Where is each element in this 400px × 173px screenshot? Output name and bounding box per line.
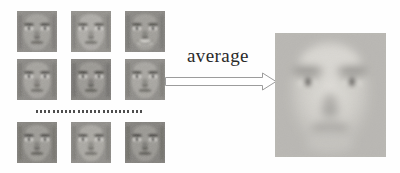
face-thumbnail <box>17 11 57 52</box>
average-label: average <box>187 44 249 68</box>
ellipsis-dot <box>86 110 88 113</box>
ellipsis-dot <box>136 110 138 113</box>
ellipsis-dot <box>69 110 71 113</box>
ellipsis-dot <box>123 110 125 113</box>
ellipsis-dot <box>127 110 129 113</box>
ellipsis-dot <box>140 110 142 113</box>
face-thumbnail <box>71 11 111 52</box>
ellipsis-dot <box>44 110 46 113</box>
ellipsis-dot <box>82 110 84 113</box>
ellipsis-dot <box>94 110 96 113</box>
ellipsis-dot <box>73 110 75 113</box>
ellipsis-dot <box>98 110 100 113</box>
ellipsis-dot <box>111 110 113 113</box>
ellipsis-dot <box>53 110 55 113</box>
ellipsis-dot <box>115 110 117 113</box>
ellipsis-dot <box>78 110 80 113</box>
ellipsis-dot <box>57 110 59 113</box>
ellipsis-dot <box>90 110 92 113</box>
face-thumbnail <box>125 59 165 100</box>
average-face-result <box>275 33 386 157</box>
face-thumbnail <box>125 122 165 163</box>
block-arrow-right-icon <box>165 72 277 91</box>
ellipsis-dot <box>61 110 63 113</box>
face-thumbnail <box>125 11 165 52</box>
face-thumbnail <box>17 122 57 163</box>
vertical-continuation-dots <box>36 109 142 113</box>
face-thumbnail <box>71 59 111 100</box>
average-face-figure: average <box>0 0 400 173</box>
ellipsis-dot <box>107 110 109 113</box>
ellipsis-dot <box>40 110 42 113</box>
face-thumbnail <box>17 59 57 100</box>
ellipsis-dot <box>103 110 105 113</box>
ellipsis-dot <box>119 110 121 113</box>
ellipsis-dot <box>48 110 50 113</box>
ellipsis-dot <box>132 110 134 113</box>
ellipsis-dot <box>65 110 67 113</box>
face-thumbnail <box>71 122 111 163</box>
ellipsis-dot <box>36 110 38 113</box>
